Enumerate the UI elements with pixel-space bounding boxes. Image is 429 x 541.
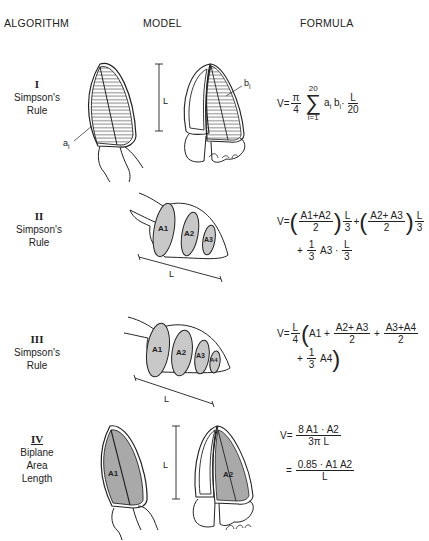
formula-row1: V= π4 20 ∑ i=1 ai bi · L20 xyxy=(277,84,362,122)
label-L-row1: L xyxy=(163,96,168,106)
label-A3-row2: A3 xyxy=(204,236,213,243)
label-A1-row3: A1 xyxy=(152,345,162,354)
label-A1-row2: A1 xyxy=(158,224,168,233)
label-A4-row3: A4 xyxy=(210,357,218,363)
model-row2 xyxy=(130,193,228,282)
label-A2-row2: A2 xyxy=(184,229,194,238)
label-A2-row3: A2 xyxy=(176,348,186,357)
label-bi: bi xyxy=(244,78,251,90)
label-A1-row4: A1 xyxy=(108,469,118,478)
label-L-row4: L xyxy=(163,460,168,470)
model-row4-left xyxy=(101,426,158,540)
formula-row4: V= 8 A1 · A23π L = 0.85 · A1 A2L xyxy=(280,424,355,482)
length-bar-row1 xyxy=(155,64,163,131)
label-L-row2: L xyxy=(169,269,174,279)
summation: 20 ∑ i=1 xyxy=(305,84,321,122)
model-row1-right xyxy=(184,64,245,162)
formula-row3: V= L4 ( A1 + A2+ A32 + A3+A42 + 13 A4 ) xyxy=(277,322,419,370)
model-row1-left xyxy=(74,63,143,182)
label-ai: ai xyxy=(63,138,70,150)
model-drawings xyxy=(0,0,429,541)
formula-row2: V= ( A1+A22 ) L3 + ( A2+ A32 ) L3 + 13 A… xyxy=(277,210,425,262)
label-A3-row3: A3 xyxy=(196,352,205,359)
label-L-row3: L xyxy=(164,394,169,404)
length-bar-row4 xyxy=(172,426,180,499)
label-A2-row4: A2 xyxy=(223,470,233,479)
